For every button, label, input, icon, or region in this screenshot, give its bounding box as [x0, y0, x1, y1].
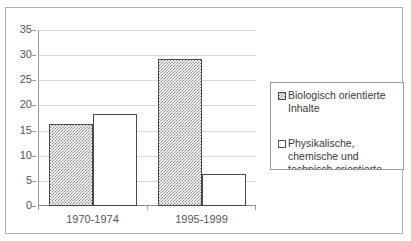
y-tick-label: 10: [8, 150, 32, 161]
y-tick-mark: [32, 55, 36, 56]
legend-entries: Biologisch orientierte Inhalte Physikali…: [278, 89, 404, 170]
y-tick-mark: [32, 206, 36, 207]
x-tick-label-1970-1974: 1970-1974: [38, 213, 147, 225]
legend-item-label: Biologisch orientierte Inhalte: [288, 89, 385, 115]
bar-group-1995-1999: [147, 30, 256, 206]
y-tick-mark: [32, 105, 36, 106]
legend-item-physikalische[interactable]: Physikalische, chemische und technisch o…: [278, 137, 404, 170]
chart-legend: Biologisch orientierte Inhalte Physikali…: [270, 82, 404, 170]
y-tick-mark: [32, 156, 36, 157]
bar-chart: 35 30 25 20 15 10 5 0: [0, 0, 411, 241]
bar-series2-cat1[interactable]: [93, 114, 137, 206]
x-tick-label-1995-1999: 1995-1999: [147, 213, 256, 225]
x-tick-mark: [255, 206, 256, 210]
bar-series1-cat2[interactable]: [158, 59, 202, 206]
x-tick-mark: [147, 206, 148, 210]
checker-swatch-icon: [278, 92, 286, 100]
y-tick-label: 25: [8, 74, 32, 85]
y-tick-mark: [32, 30, 36, 31]
chart-frame: 35 30 25 20 15 10 5 0: [5, 7, 403, 234]
y-tick-label: 35: [8, 24, 32, 35]
legend-item-biologisch[interactable]: Biologisch orientierte Inhalte: [278, 89, 404, 115]
y-tick-mark: [32, 181, 36, 182]
y-tick-label: 5: [8, 175, 32, 186]
legend-item-label: Physikalische, chemische und technisch o…: [288, 137, 382, 170]
y-tick-label: 20: [8, 99, 32, 110]
y-axis-labels: 35 30 25 20 15 10 5 0: [6, 30, 32, 206]
empty-swatch-icon: [278, 140, 286, 148]
x-axis-labels: 1970-1974 1995-1999: [38, 213, 256, 225]
x-axis-ticks: [38, 206, 256, 211]
bar-series2-cat2[interactable]: [202, 174, 246, 206]
y-tick-mark: [32, 80, 36, 81]
bar-group-1970-1974: [38, 30, 147, 206]
y-tick-label: 15: [8, 125, 32, 136]
bar-groups: [38, 30, 256, 206]
y-tick-label: 30: [8, 49, 32, 60]
y-tick-mark: [32, 131, 36, 132]
y-tick-label: 0: [8, 200, 32, 211]
x-tick-mark: [38, 206, 39, 210]
bar-series1-cat1[interactable]: [49, 124, 93, 206]
